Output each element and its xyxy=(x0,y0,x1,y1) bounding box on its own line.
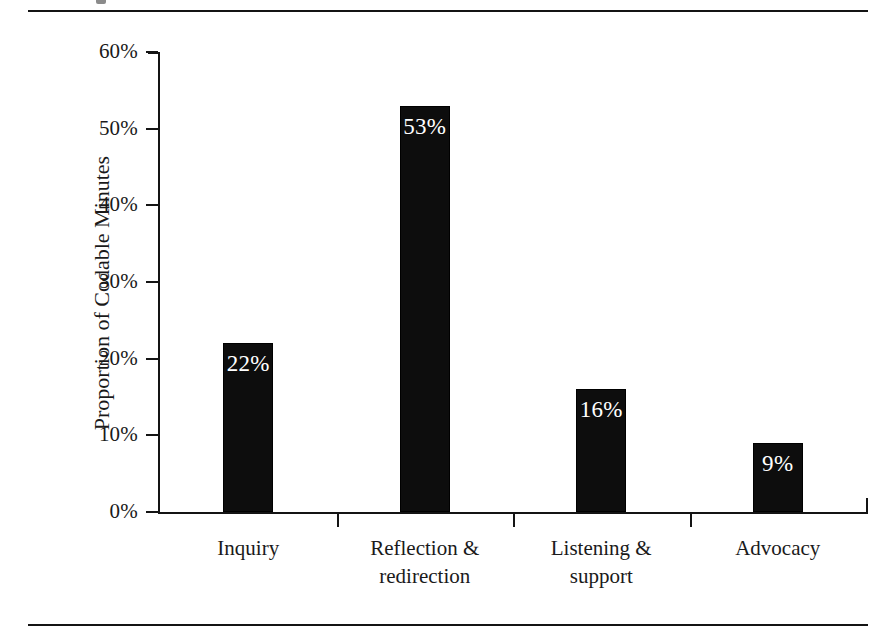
x-axis-end-cap xyxy=(866,498,868,514)
x-axis-category-label: Inquiry xyxy=(160,534,337,562)
x-axis-category-label: Advocacy xyxy=(690,534,867,562)
y-axis-title: Proportion of Codable Minutes xyxy=(91,113,113,473)
y-axis-tick-label: 40% xyxy=(60,194,138,215)
x-axis-category-label: Listening & support xyxy=(513,534,690,590)
y-axis-tick xyxy=(146,358,158,360)
y-axis-tick-label: 30% xyxy=(60,271,138,292)
bar: 53% xyxy=(400,106,450,512)
x-axis-tick xyxy=(337,514,339,527)
y-axis-tick xyxy=(146,128,158,130)
y-axis-tick xyxy=(146,51,158,53)
bar: 22% xyxy=(223,343,273,512)
bar-value-label: 16% xyxy=(576,397,626,423)
y-axis-tick-label: 60% xyxy=(60,41,138,62)
x-axis-category-label: Reflection & redirection xyxy=(337,534,514,590)
bar: 9% xyxy=(753,443,803,512)
x-axis-tick xyxy=(690,514,692,527)
y-axis-tick xyxy=(146,281,158,283)
bar: 16% xyxy=(576,389,626,512)
y-axis-tick xyxy=(146,511,158,513)
y-axis-tick-label: 10% xyxy=(60,424,138,445)
y-axis-tick xyxy=(146,434,158,436)
bar-value-label: 22% xyxy=(223,351,273,377)
y-axis-tick-label: 50% xyxy=(60,118,138,139)
bar-value-label: 9% xyxy=(753,451,803,477)
y-axis-tick xyxy=(146,204,158,206)
bar-value-label: 53% xyxy=(400,114,450,140)
figure-panel: Proportion of Codable Minutes 0%10%20%30… xyxy=(0,0,892,639)
y-axis-tick-label: 20% xyxy=(60,348,138,369)
y-axis-line xyxy=(158,52,160,514)
y-axis-tick-label: 0% xyxy=(60,501,138,522)
x-axis-tick xyxy=(513,514,515,527)
bar-chart: Proportion of Codable Minutes 0%10%20%30… xyxy=(0,0,892,639)
